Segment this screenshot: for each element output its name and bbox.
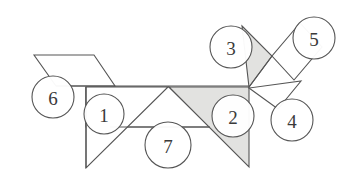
label-3[interactable]: 3	[210, 26, 252, 68]
label-7[interactable]: 7	[145, 122, 191, 168]
label-4-text: 4	[287, 111, 297, 132]
label-6-text: 6	[48, 88, 58, 109]
tangram-figure: 6 1 7 2 3 4 5	[0, 0, 352, 183]
label-4[interactable]: 4	[271, 99, 313, 141]
tangram-canvas: 6 1 7 2 3 4 5	[0, 0, 352, 183]
label-5-text: 5	[309, 29, 319, 50]
label-6[interactable]: 6	[32, 76, 74, 118]
label-2-text: 2	[228, 107, 238, 128]
label-7-text: 7	[163, 136, 173, 157]
label-5[interactable]: 5	[293, 17, 335, 59]
label-1-text: 1	[99, 105, 109, 126]
label-3-text: 3	[226, 38, 236, 59]
label-2[interactable]: 2	[212, 95, 254, 137]
label-1[interactable]: 1	[84, 94, 124, 134]
